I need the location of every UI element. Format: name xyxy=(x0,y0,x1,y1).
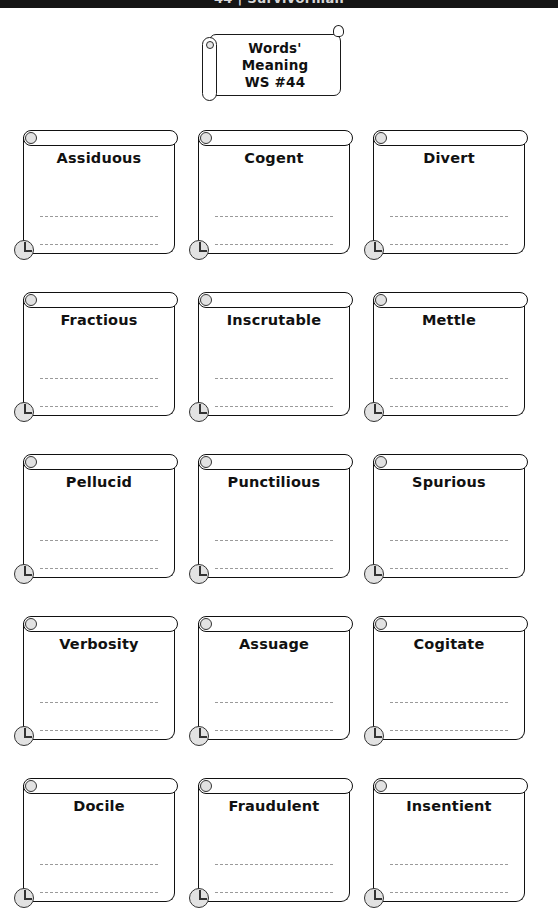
word-scroll-card[interactable]: Assiduous xyxy=(14,128,178,260)
vocabulary-word: Fractious xyxy=(23,312,175,328)
scroll-bottom-curl-icon xyxy=(364,888,384,908)
vocabulary-word: Punctilious xyxy=(198,474,350,490)
vocabulary-word: Spurious xyxy=(373,474,525,490)
word-scroll-card[interactable]: Fraudulent xyxy=(189,776,353,908)
scroll-top-roll-icon xyxy=(373,778,528,794)
vocabulary-word: Cogitate xyxy=(373,636,525,652)
answer-write-line[interactable] xyxy=(40,730,158,731)
answer-write-line[interactable] xyxy=(40,406,158,407)
word-scroll-card[interactable]: Pellucid xyxy=(14,452,178,584)
answer-write-line[interactable] xyxy=(215,244,333,245)
answer-write-line[interactable] xyxy=(215,216,333,217)
word-scroll-card[interactable]: Mettle xyxy=(364,290,528,422)
scroll-bottom-curl-icon xyxy=(14,888,34,908)
vocabulary-word: Fraudulent xyxy=(198,798,350,814)
scroll-bottom-curl-icon xyxy=(189,726,209,746)
scroll-top-roll-icon xyxy=(198,292,353,308)
word-scroll-card[interactable]: Inscrutable xyxy=(189,290,353,422)
scroll-top-curl-icon xyxy=(200,618,212,630)
word-scroll-card[interactable]: Assuage xyxy=(189,614,353,746)
answer-write-line[interactable] xyxy=(390,216,508,217)
scroll-top-roll-icon xyxy=(198,616,353,632)
worksheet-title-scroll: Words' Meaning WS #44 xyxy=(198,26,350,106)
answer-write-line[interactable] xyxy=(390,378,508,379)
scroll-top-curl-icon xyxy=(25,618,37,630)
scroll-bottom-curl-icon xyxy=(189,240,209,260)
scroll-top-roll-icon xyxy=(23,616,178,632)
word-scroll-card[interactable]: Divert xyxy=(364,128,528,260)
scroll-top-roll-icon xyxy=(198,778,353,794)
scroll-bottom-curl-icon xyxy=(14,726,34,746)
answer-write-line[interactable] xyxy=(390,730,508,731)
answer-write-line[interactable] xyxy=(215,730,333,731)
word-scroll-card[interactable]: Insentient xyxy=(364,776,528,908)
scroll-top-curl-icon xyxy=(200,132,212,144)
scroll-top-roll-icon xyxy=(198,130,353,146)
scroll-top-curl-icon xyxy=(375,456,387,468)
word-scroll-card[interactable]: Docile xyxy=(14,776,178,908)
vocabulary-word: Assuage xyxy=(198,636,350,652)
answer-write-line[interactable] xyxy=(390,892,508,893)
scroll-top-curl-icon xyxy=(25,132,37,144)
scroll-top-curl-icon xyxy=(375,132,387,144)
scroll-top-roll-icon xyxy=(23,130,178,146)
answer-write-line[interactable] xyxy=(215,702,333,703)
vocabulary-word: Docile xyxy=(23,798,175,814)
scroll-top-curl-icon xyxy=(25,456,37,468)
answer-write-line[interactable] xyxy=(390,864,508,865)
scroll-top-roll-icon xyxy=(373,130,528,146)
word-scroll-card[interactable]: Fractious xyxy=(14,290,178,422)
vocabulary-word: Insentient xyxy=(373,798,525,814)
answer-write-line[interactable] xyxy=(215,378,333,379)
answer-write-line[interactable] xyxy=(40,864,158,865)
scroll-top-curl-icon xyxy=(200,294,212,306)
answer-write-line[interactable] xyxy=(390,406,508,407)
answer-write-line[interactable] xyxy=(215,540,333,541)
answer-write-line[interactable] xyxy=(40,892,158,893)
scroll-bottom-curl-icon xyxy=(189,888,209,908)
scroll-top-roll-icon xyxy=(23,454,178,470)
answer-write-line[interactable] xyxy=(390,702,508,703)
scroll-bottom-curl-icon xyxy=(14,402,34,422)
answer-write-line[interactable] xyxy=(215,406,333,407)
vocabulary-word: Verbosity xyxy=(23,636,175,652)
scroll-top-roll-icon xyxy=(23,292,178,308)
scroll-top-roll-icon xyxy=(373,616,528,632)
scroll-bottom-curl-icon xyxy=(14,240,34,260)
site-header-bar: 44 | Survivorman xyxy=(0,0,558,8)
scroll-top-curl-icon xyxy=(25,780,37,792)
page-title-line-2: Meaning xyxy=(242,57,309,74)
scroll-bottom-curl-icon xyxy=(189,564,209,584)
answer-write-line[interactable] xyxy=(40,540,158,541)
scroll-top-curl-icon xyxy=(375,618,387,630)
scroll-top-roll-icon xyxy=(23,778,178,794)
vocabulary-word: Cogent xyxy=(198,150,350,166)
scroll-top-roll-icon xyxy=(373,454,528,470)
answer-write-line[interactable] xyxy=(390,540,508,541)
scroll-bottom-curl-icon xyxy=(364,726,384,746)
answer-write-line[interactable] xyxy=(390,244,508,245)
vocabulary-word: Mettle xyxy=(373,312,525,328)
word-scroll-card[interactable]: Cogitate xyxy=(364,614,528,746)
word-scroll-card[interactable]: Verbosity xyxy=(14,614,178,746)
word-scroll-card[interactable]: Punctilious xyxy=(189,452,353,584)
answer-write-line[interactable] xyxy=(40,244,158,245)
vocabulary-word: Inscrutable xyxy=(198,312,350,328)
vocabulary-word: Assiduous xyxy=(23,150,175,166)
answer-write-line[interactable] xyxy=(215,864,333,865)
site-header-text: 44 | Survivorman xyxy=(0,0,558,6)
word-scroll-card[interactable]: Spurious xyxy=(364,452,528,584)
answer-write-line[interactable] xyxy=(40,568,158,569)
page-title-line-1: Words' xyxy=(248,40,301,57)
scroll-bottom-curl-icon xyxy=(364,240,384,260)
answer-write-line[interactable] xyxy=(390,568,508,569)
answer-write-line[interactable] xyxy=(40,378,158,379)
answer-write-line[interactable] xyxy=(215,892,333,893)
word-scroll-card[interactable]: Cogent xyxy=(189,128,353,260)
scroll-top-curl-icon xyxy=(200,780,212,792)
answer-write-line[interactable] xyxy=(40,702,158,703)
scroll-bottom-curl-icon xyxy=(364,402,384,422)
answer-write-line[interactable] xyxy=(215,568,333,569)
scroll-top-curl-icon xyxy=(200,456,212,468)
answer-write-line[interactable] xyxy=(40,216,158,217)
